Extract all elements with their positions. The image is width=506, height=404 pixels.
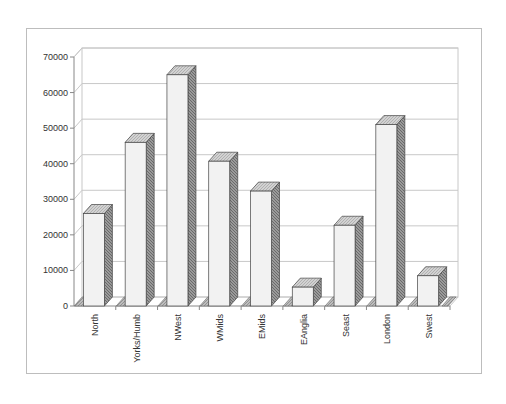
x-category-label: WMids — [215, 314, 225, 342]
bar-emids — [242, 182, 280, 306]
y-tick-label: 40000 — [43, 159, 68, 169]
y-tick-label: 20000 — [43, 230, 68, 240]
y-tick-label: 10000 — [43, 265, 68, 275]
x-category-label: NWest — [173, 314, 183, 341]
bar-yorkshumb — [116, 133, 154, 306]
bar-london — [367, 116, 405, 306]
x-category-label: Seast — [341, 314, 351, 338]
x-category-label: EMids — [257, 314, 267, 340]
x-axis-labels: NorthYorks/HumbNWestWMidsEMidsEAngliaSea… — [90, 314, 434, 363]
bar-nwest — [158, 66, 196, 306]
bars — [74, 66, 456, 306]
y-tick-label: 60000 — [43, 88, 68, 98]
y-tick-label: 70000 — [43, 52, 68, 62]
x-category-label: Swest — [424, 314, 434, 339]
x-category-label: North — [90, 314, 100, 336]
bar-swest — [409, 267, 447, 306]
bar-eanglia — [283, 278, 321, 306]
x-category-label: London — [382, 314, 392, 344]
x-category-label: EAnglia — [299, 314, 309, 345]
bar-north — [74, 205, 112, 306]
bar-wmids — [200, 152, 238, 306]
x-category-label: Yorks/Humb — [132, 314, 142, 363]
y-tick-label: 50000 — [43, 123, 68, 133]
y-tick-label: 0 — [63, 301, 68, 311]
bar-chart: 010000200003000040000500006000070000 Nor… — [0, 0, 506, 404]
y-tick-label: 30000 — [43, 194, 68, 204]
